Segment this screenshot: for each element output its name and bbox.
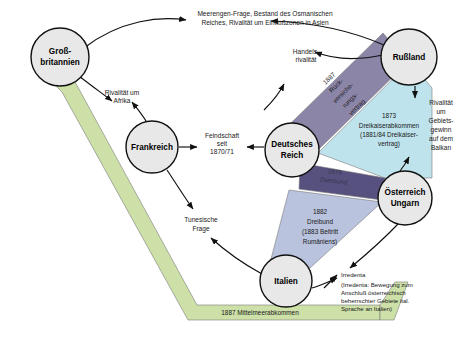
svg-text:Irredenta: Irredenta: [341, 271, 366, 278]
svg-text:beherrschter Gebiete ital.: beherrschter Gebiete ital.: [341, 297, 410, 304]
svg-text:Reich: Reich: [281, 151, 303, 160]
svg-text:um: um: [436, 108, 446, 115]
arrow-gb-to-handel: [264, 84, 284, 110]
svg-text:Dreikaiserabkommen: Dreikaiserabkommen: [359, 122, 420, 129]
svg-text:Italien: Italien: [274, 277, 298, 286]
arrow-italien-to-tunesien: [211, 238, 262, 274]
band-label-mittelmeerabkommen: 1887 Mittelmeerabkommen: [221, 309, 299, 316]
node-grossbritannien[interactable]: Groß- britannien: [31, 28, 89, 86]
svg-text:Tunesische: Tunesische: [184, 216, 218, 223]
svg-text:Österreich: Österreich: [385, 187, 426, 197]
annotation-meerengen-frage: Meerengen-Frage, Bestand des Osmanischen…: [197, 10, 333, 26]
svg-text:Rivalität: Rivalität: [429, 99, 453, 106]
svg-text:Balkan: Balkan: [431, 144, 451, 151]
svg-text:Dreibund: Dreibund: [307, 218, 333, 225]
annotation-handelsrivalitaet: Handels- rivalität: [293, 48, 319, 63]
svg-text:Anschluß österreichisch: Anschluß österreichisch: [341, 289, 406, 296]
svg-text:Handels-: Handels-: [293, 48, 319, 55]
svg-text:Feindschaft: Feindschaft: [205, 132, 239, 139]
node-deutsches-reich-circle[interactable]: [265, 123, 319, 177]
svg-text:gewinn: gewinn: [431, 126, 452, 134]
svg-text:1887 Mittelmeerabkommen: 1887 Mittelmeerabkommen: [221, 309, 299, 316]
node-italien[interactable]: Italien: [260, 255, 312, 307]
svg-text:seit: seit: [217, 140, 227, 147]
svg-text:Afrika: Afrika: [114, 97, 131, 104]
svg-text:(Irredenta: Bewegung zum: (Irredenta: Bewegung zum: [341, 281, 413, 288]
alliance-diagram: Meerengen-Frage, Bestand des Osmanischen…: [0, 0, 468, 341]
svg-text:Groß-: Groß-: [49, 47, 72, 56]
svg-text:vertrag): vertrag): [378, 140, 400, 148]
svg-text:Meerengen-Frage, Bestand des O: Meerengen-Frage, Bestand des Osmanischen: [197, 10, 333, 18]
svg-text:britannien: britannien: [40, 58, 80, 67]
svg-text:1870/71: 1870/71: [210, 148, 234, 155]
arrow-frankreich-to-afrika: [132, 102, 146, 121]
svg-text:Deutsches: Deutsches: [271, 140, 313, 149]
arrow-frankreich-to-tunesien: [167, 170, 193, 209]
svg-text:Gebiets-: Gebiets-: [429, 117, 454, 124]
svg-text:Frankreich: Frankreich: [131, 143, 173, 152]
annotation-rivalitaet-afrika: Rivalität um Afrika: [105, 89, 140, 104]
annotation-irredenta: Irredenta (Irredenta: Bewegung zum Ansch…: [341, 271, 413, 312]
svg-text:1873: 1873: [382, 112, 397, 119]
svg-text:Ungarn: Ungarn: [391, 199, 420, 208]
svg-text:Reiches, Rivalität um Einflußz: Reiches, Rivalität um Einflußzonen in As…: [201, 19, 329, 26]
svg-text:Rivalität um: Rivalität um: [105, 89, 140, 96]
node-oesterreich-ungarn[interactable]: Österreich Ungarn: [378, 171, 432, 225]
annotation-tunesische-frage: Tunesische Frage: [184, 216, 218, 233]
node-russland[interactable]: Rußland: [381, 29, 437, 85]
arrow-irredenta-to-note: [324, 275, 337, 288]
svg-text:Rumäniens): Rumäniens): [303, 238, 337, 246]
annotation-feindschaft-1870: Feindschaft seit 1870/71: [205, 132, 239, 155]
svg-text:auf dem: auf dem: [429, 135, 453, 142]
svg-text:1882: 1882: [313, 208, 328, 215]
svg-text:(1883 Beitritt: (1883 Beitritt: [302, 228, 338, 236]
arrow-oesterreich-to-irredenta: [350, 224, 398, 268]
diagram-canvas: Meerengen-Frage, Bestand des Osmanischen…: [0, 0, 468, 341]
svg-text:Rußland: Rußland: [393, 53, 426, 62]
svg-text:Sprache an Italien): Sprache an Italien): [341, 305, 392, 312]
arrow-gb-to-meerengen: [84, 19, 186, 48]
svg-text:rivalität: rivalität: [296, 56, 317, 63]
node-oesterreich-ungarn-circle[interactable]: [378, 171, 432, 225]
node-deutsches-reich[interactable]: Deutsches Reich: [265, 123, 319, 177]
svg-text:(1881/84 Dreikaiser-: (1881/84 Dreikaiser-: [360, 131, 418, 139]
node-grossbritannien-circle[interactable]: [31, 28, 89, 86]
node-frankreich[interactable]: Frankreich: [126, 121, 178, 173]
svg-text:Frage: Frage: [192, 225, 210, 233]
